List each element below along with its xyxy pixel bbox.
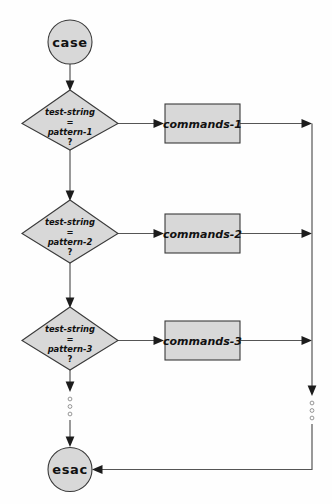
arrowhead-commands-3-to-exit-rail	[302, 336, 313, 345]
right-vertical-ellipsis-icon	[310, 401, 314, 420]
decision-3-line2: =	[66, 334, 73, 344]
decision-1-line2: =	[66, 117, 73, 127]
decision-3-line3: pattern-3	[47, 344, 93, 354]
node-start-case[interactable]: case	[48, 20, 92, 64]
decision-2-line1: test-string	[45, 217, 95, 227]
node-decision-1[interactable]: test-string = pattern-1 ?	[22, 90, 118, 150]
arrowhead-decision-3-to-ellipsis	[66, 382, 75, 393]
arrowhead-ellipsis-to-esac	[66, 437, 75, 448]
node-decision-2[interactable]: test-string = pattern-2 ?	[22, 200, 118, 263]
end-esac-label: esac	[52, 462, 87, 477]
commands-3-label: commands-3	[163, 335, 242, 348]
decision-3-line4: ?	[68, 354, 73, 364]
node-commands-2[interactable]: commands-2	[163, 214, 242, 253]
decision-2-line4: ?	[68, 247, 73, 257]
decision-1-line3: pattern-1	[47, 127, 93, 137]
node-commands-3[interactable]: commands-3	[163, 321, 242, 360]
arrowhead-commands-1-to-exit-rail	[302, 119, 313, 128]
decision-2-line2: =	[66, 227, 73, 237]
commands-2-label: commands-2	[163, 228, 242, 241]
decision-1-line1: test-string	[45, 107, 95, 117]
arrowhead-commands-2-to-exit-rail	[302, 229, 313, 238]
decision-3-line1: test-string	[45, 324, 95, 334]
left-vertical-ellipsis-icon	[68, 397, 72, 416]
commands-1-label: commands-1	[163, 118, 242, 131]
flowchart-svg: case test-string = pattern-1 ? commands-…	[0, 0, 332, 504]
start-case-label: case	[52, 35, 87, 50]
node-commands-1[interactable]: commands-1	[163, 104, 242, 143]
node-end-esac[interactable]: esac	[48, 448, 92, 492]
arrowhead-exit-rail-down	[308, 386, 317, 397]
decision-2-line3: pattern-2	[47, 237, 93, 247]
decision-1-line4: ?	[68, 137, 73, 147]
node-decision-3[interactable]: test-string = pattern-3 ?	[22, 307, 118, 370]
flowchart-canvas: case test-string = pattern-1 ? commands-…	[0, 0, 332, 504]
arrowhead-exit-rail-to-esac	[92, 465, 103, 474]
exit-rail-lower-to-esac	[99, 424, 312, 470]
